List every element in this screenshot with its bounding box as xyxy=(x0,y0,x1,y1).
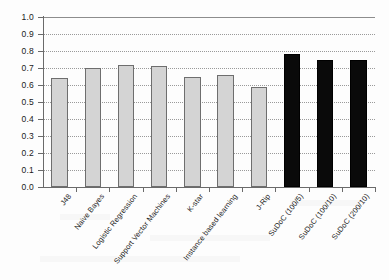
y-tick-label: 1.0 xyxy=(0,12,34,22)
x-axis-labels: J48Naive BayesLogistic RegressionSupport… xyxy=(0,190,389,280)
x-tick-label: Naive Bayes xyxy=(72,192,106,232)
y-tick-label: 0.7 xyxy=(0,63,34,73)
x-tick-label: J48 xyxy=(58,192,73,207)
y-tick-label: 0.1 xyxy=(0,165,34,175)
x-tick-label: J-Rip xyxy=(254,192,272,212)
x-tick-label: Support Vector Machines xyxy=(112,192,172,265)
bar-0 xyxy=(51,78,68,187)
bar-3 xyxy=(151,66,168,187)
bar-6 xyxy=(251,87,268,187)
bar-series xyxy=(43,17,375,187)
bar-4 xyxy=(184,77,201,188)
bar-5 xyxy=(217,75,234,187)
bar-1 xyxy=(85,68,102,187)
bar-2 xyxy=(118,65,135,187)
y-tick-label: 0.3 xyxy=(0,131,34,141)
bar-chart: 1.00.90.80.70.60.50.40.30.20.10.0 J48Nai… xyxy=(0,0,389,280)
bar-8 xyxy=(317,60,334,188)
y-tick-label: 0.4 xyxy=(0,114,34,124)
y-tick-label: 0.8 xyxy=(0,46,34,56)
y-tick-label: 0.2 xyxy=(0,148,34,158)
x-tick-label: K-star xyxy=(186,192,206,214)
bar-9 xyxy=(350,60,367,188)
y-tick-label: 0.9 xyxy=(0,29,34,39)
bar-7 xyxy=(284,54,301,187)
y-tick-label: 0.5 xyxy=(0,97,34,107)
y-tick-label: 0.6 xyxy=(0,80,34,90)
